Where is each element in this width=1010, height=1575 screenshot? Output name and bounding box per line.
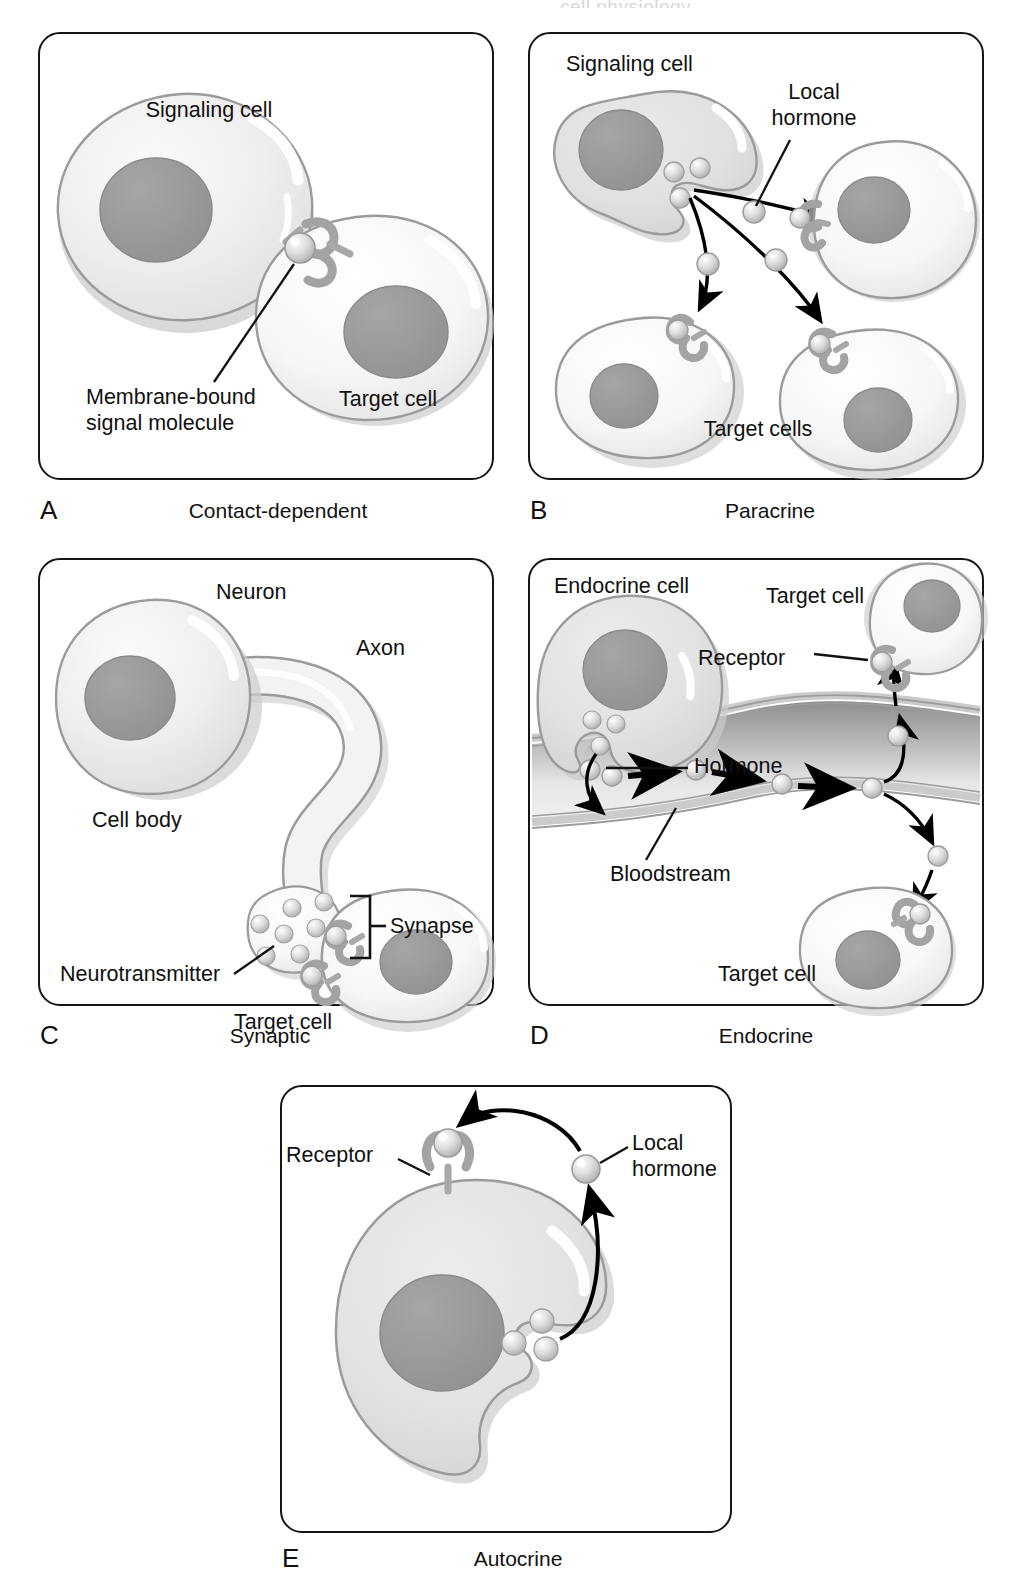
panel-b-paracrine: Signaling cell Local hormone Target cell… <box>528 32 984 480</box>
bound-hormone <box>872 652 892 672</box>
vesicle <box>690 158 710 178</box>
panel-b-caption-letter: B <box>530 495 547 525</box>
panel-a-signal-molecule-label-line2: signal molecule <box>86 411 234 436</box>
bound-neurotransmitter <box>326 926 346 946</box>
neurotransmitter <box>251 915 269 933</box>
target-cell-top-nucleus <box>904 580 960 632</box>
neurotransmitter <box>315 893 333 911</box>
signaling-cell-nucleus <box>579 110 663 190</box>
panel-a-contact-dependent: Signaling cell Target cell Membrane-boun… <box>38 32 494 480</box>
panel-e-autocrine: Receptor Local hormone <box>280 1085 732 1533</box>
bound-hormone <box>668 320 688 340</box>
vesicle <box>591 737 609 755</box>
autocrine-cell-nucleus <box>380 1275 504 1391</box>
signal-molecule-sphere <box>285 233 315 263</box>
endocrine-cell-nucleus <box>583 630 667 710</box>
panel-d-endocrine: Endocrine cell Target cell Receptor Horm… <box>528 558 984 1006</box>
panel-a-caption-letter: A <box>40 495 57 525</box>
vesicle <box>502 1331 526 1355</box>
panel-b-caption-title: Paracrine <box>640 496 900 526</box>
panel-b-local-hormone-label-line1: Local <box>744 80 884 105</box>
cropped-page-header: cell physiology <box>560 0 920 8</box>
local-hormone-free <box>572 1155 600 1183</box>
panel-e-local-hormone-label-line1: Local <box>632 1131 683 1156</box>
hormone-descending <box>928 846 948 866</box>
panel-d-target-cell-top-label: Target cell <box>766 584 864 609</box>
panel-b-signaling-cell-label: Signaling cell <box>566 52 693 77</box>
autocrine-binding-arrow <box>462 1110 580 1151</box>
panel-c-axon-label: Axon <box>356 636 405 661</box>
neurotransmitter <box>291 945 309 963</box>
panel-d-artwork <box>528 558 984 1006</box>
panel-d-caption-title: Endocrine <box>636 1021 896 1051</box>
vesicle <box>534 1337 558 1361</box>
panel-a-signaling-cell-label: Signaling cell <box>84 98 334 123</box>
bound-hormone <box>810 334 830 354</box>
vesicle <box>607 715 625 733</box>
panel-d-receptor-label: Receptor <box>698 646 785 671</box>
panel-d-target-cell-bottom-label: Target cell <box>718 962 816 987</box>
vesicle <box>583 711 601 729</box>
vesicle <box>664 162 684 182</box>
panel-e-receptor-label: Receptor <box>286 1143 373 1168</box>
receptor-stalk <box>818 222 828 224</box>
panel-e-caption-title: Autocrine <box>388 1544 648 1574</box>
local-hormone <box>765 249 787 271</box>
panel-d-bloodstream-label: Bloodstream <box>610 862 731 887</box>
panel-a-signal-molecule-label-line1: Membrane-bound <box>86 385 256 410</box>
bound-local-hormone <box>434 1129 462 1157</box>
hormone-exit-arrow-down <box>884 794 932 842</box>
neurotransmitter <box>307 919 325 937</box>
bound-neurotransmitter <box>302 966 322 986</box>
local-hormone-leader-line <box>600 1147 628 1163</box>
panel-d-endocrine-cell-label: Endocrine cell <box>554 574 689 599</box>
panel-b-local-hormone-label-line2: hormone <box>744 106 884 131</box>
vesicle <box>530 1309 554 1333</box>
local-hormone-specular <box>577 1159 585 1167</box>
panel-e-local-hormone-label-line2: hormone <box>632 1157 717 1182</box>
panel-d-caption-letter: D <box>530 1020 549 1050</box>
target-cell-3-nucleus <box>844 388 912 452</box>
target-cell-2-nucleus <box>590 364 658 428</box>
flow-arrow <box>798 786 848 788</box>
bound-hormone <box>790 208 810 228</box>
panel-a-target-cell-label: Target cell <box>288 387 488 412</box>
hormone-ascending <box>888 726 908 746</box>
panel-c-cell-body-label: Cell body <box>92 808 182 833</box>
panel-e-caption-letter: E <box>282 1543 299 1573</box>
neurotransmitter <box>283 899 301 917</box>
panel-a-caption-title: Contact-dependent <box>128 496 428 526</box>
target-cell-1-nucleus <box>838 177 910 243</box>
receptor-leader-line <box>814 654 868 660</box>
hormone-in-vessel <box>862 778 882 798</box>
flow-arrow <box>628 772 674 776</box>
panel-c-neurotransmitter-label: Neurotransmitter <box>60 962 220 987</box>
panel-c-synaptic: Neuron Axon Cell body Neurotransmitter S… <box>38 558 494 1006</box>
neuron-nucleus <box>85 656 175 740</box>
receptor-hormone-specular <box>439 1133 447 1141</box>
panel-c-caption-title: Synaptic <box>140 1021 400 1051</box>
panel-c-neuron-label: Neuron <box>216 580 287 605</box>
vesicle <box>670 188 690 208</box>
target-cell-nucleus <box>344 286 448 378</box>
local-hormone-spheres <box>697 201 787 275</box>
cell-signaling-figure: cell physiology <box>0 0 1010 1575</box>
panel-c-synapse-label: Synapse <box>390 914 474 939</box>
panel-b-target-cells-label: Target cells <box>678 417 838 442</box>
signal-molecule-specular <box>291 238 300 247</box>
local-hormone <box>743 201 765 223</box>
panel-c-caption-letter: C <box>40 1020 59 1050</box>
target-cell-bottom-nucleus <box>836 931 900 989</box>
target-cell-nucleus <box>380 930 452 994</box>
local-hormone <box>697 253 719 275</box>
panel-d-hormone-label: Hormone <box>694 754 782 779</box>
bound-hormone <box>910 904 930 924</box>
neurotransmitter <box>275 925 293 943</box>
signaling-cell-nucleus <box>100 158 212 262</box>
